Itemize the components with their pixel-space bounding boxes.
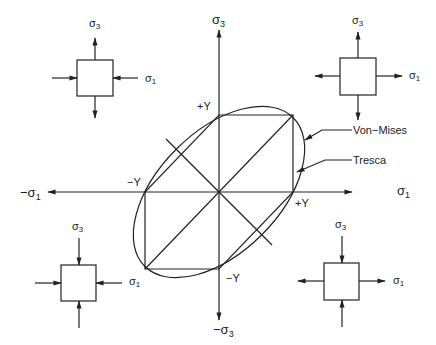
von-mises-leader: Von−Mises xyxy=(305,124,408,140)
svg-text:Von−Mises: Von−Mises xyxy=(353,124,408,136)
tresca-leader: Tresca xyxy=(297,154,387,172)
top-plus-y-label: +Y xyxy=(197,100,211,112)
yield-criteria-diagram: σ3 −σ3 −σ1 σ1 +Y +Y −Y −Y Von−Mises Tres… xyxy=(0,0,436,345)
stress-element-top-right: σ3 σ1 xyxy=(315,14,421,120)
svg-text:σ1: σ1 xyxy=(145,72,157,86)
svg-text:σ3: σ3 xyxy=(89,17,101,31)
neg-sigma3-label: −σ3 xyxy=(213,322,234,339)
svg-text:σ1: σ1 xyxy=(409,69,421,83)
stress-element-bottom-right: σ3 σ1 xyxy=(298,218,405,327)
minor-tick-lower xyxy=(261,234,272,245)
stress-element-bottom-left: σ3 σ1 xyxy=(35,220,141,328)
svg-text:σ3: σ3 xyxy=(335,218,347,232)
svg-text:σ1: σ1 xyxy=(129,275,141,289)
svg-text:σ1: σ1 xyxy=(393,274,405,288)
pos-sigma1-label: σ1 xyxy=(397,183,410,200)
pos-sigma3-label: σ3 xyxy=(212,12,225,29)
right-plus-y-label: +Y xyxy=(295,197,309,209)
minor-tick-upper xyxy=(166,139,177,150)
left-minus-y-label: −Y xyxy=(127,176,141,188)
bottom-minus-y-label: −Y xyxy=(226,272,240,284)
svg-text:σ3: σ3 xyxy=(72,220,84,234)
neg-sigma1-label: −σ1 xyxy=(20,185,41,202)
stress-element-top-left: σ3 σ1 xyxy=(52,17,157,118)
svg-text:Tresca: Tresca xyxy=(353,154,387,166)
svg-text:σ3: σ3 xyxy=(352,14,364,28)
axes xyxy=(48,30,352,320)
